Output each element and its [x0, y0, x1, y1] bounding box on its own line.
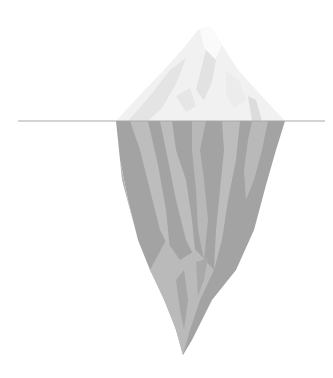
- iceberg-tip: [116, 26, 285, 121]
- iceberg-graphic: [0, 0, 333, 378]
- iceberg-illustration: [0, 0, 333, 378]
- iceberg-underwater: [116, 121, 285, 355]
